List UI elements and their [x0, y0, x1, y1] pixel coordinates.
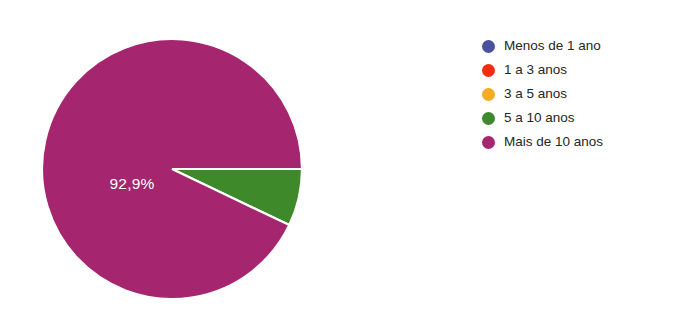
- pie-svg: 92,9%: [42, 35, 304, 305]
- legend-item[interactable]: 1 a 3 anos: [482, 58, 672, 82]
- legend-item[interactable]: 5 a 10 anos: [482, 106, 672, 130]
- legend-color-swatch-icon: [482, 112, 495, 125]
- pie-slice[interactable]: [42, 39, 302, 299]
- legend-color-swatch-icon: [482, 136, 495, 149]
- legend-item-label: 5 a 10 anos: [504, 111, 575, 125]
- legend-item[interactable]: 3 a 5 anos: [482, 82, 672, 106]
- legend-color-swatch-icon: [482, 40, 495, 53]
- legend-color-swatch-icon: [482, 64, 495, 77]
- legend-item[interactable]: Menos de 1 ano: [482, 34, 672, 58]
- legend-item-label: Menos de 1 ano: [504, 39, 601, 53]
- legend-item-label: 1 a 3 anos: [504, 63, 567, 77]
- legend-item-label: Mais de 10 anos: [504, 135, 603, 149]
- pie-chart: 92,9% Menos de 1 ano1 a 3 anos3 a 5 anos…: [0, 0, 680, 325]
- pie-slice-group: [42, 39, 302, 299]
- legend: Menos de 1 ano1 a 3 anos3 a 5 anos5 a 10…: [482, 34, 672, 154]
- legend-item[interactable]: Mais de 10 anos: [482, 130, 672, 154]
- legend-item-label: 3 a 5 anos: [504, 87, 567, 101]
- pie-plot-area: 92,9%: [42, 35, 304, 305]
- pie-slice-percentage-label: 92,9%: [110, 175, 155, 192]
- legend-color-swatch-icon: [482, 88, 495, 101]
